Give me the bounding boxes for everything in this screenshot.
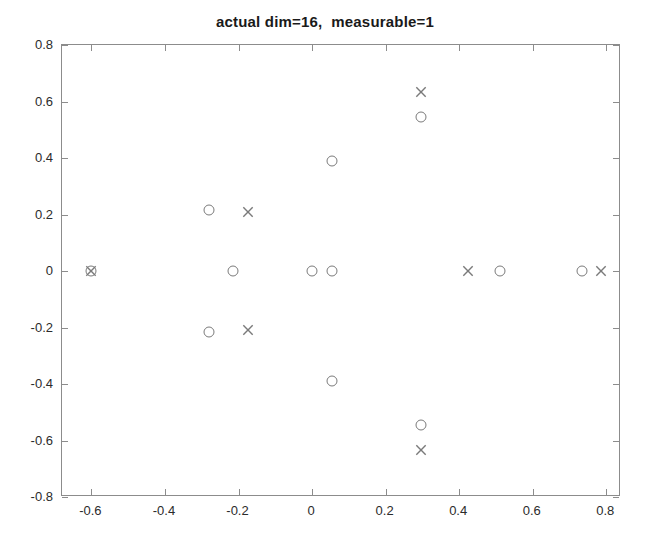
x-tick: [533, 489, 534, 495]
y-tick-right: [613, 271, 619, 272]
y-tick-label: -0.4: [0, 376, 53, 391]
x-tick-label: 0.8: [596, 503, 614, 518]
data-point-circle: [415, 112, 426, 123]
x-tick-top: [312, 45, 313, 51]
y-tick: [62, 271, 68, 272]
y-tick-right: [613, 45, 619, 46]
data-point-cross: [462, 265, 475, 278]
data-point-circle: [494, 266, 505, 277]
y-tick-right: [613, 497, 619, 498]
x-tick: [459, 489, 460, 495]
x-tick-top: [533, 45, 534, 51]
x-tick-top: [91, 45, 92, 51]
y-tick-label: -0.2: [0, 319, 53, 334]
data-point-circle: [327, 266, 338, 277]
x-tick-label: -0.2: [226, 503, 248, 518]
y-tick: [62, 497, 68, 498]
data-point-circle: [86, 266, 97, 277]
x-tick-label: -0.6: [79, 503, 101, 518]
x-tick-label: 0.4: [449, 503, 467, 518]
x-tick-top: [165, 45, 166, 51]
y-tick-label: -0.6: [0, 432, 53, 447]
data-point-cross: [414, 85, 427, 98]
y-tick-label: -0.8: [0, 489, 53, 504]
x-tick: [239, 489, 240, 495]
y-tick-label: 0: [0, 263, 53, 278]
data-point-cross: [594, 265, 607, 278]
y-tick-right: [613, 384, 619, 385]
x-tick-top: [239, 45, 240, 51]
data-point-circle: [204, 326, 215, 337]
data-point-circle: [327, 376, 338, 387]
data-point-circle: [307, 266, 318, 277]
data-point-cross: [85, 265, 98, 278]
x-tick-label: 0: [307, 503, 314, 518]
x-tick: [386, 489, 387, 495]
x-tick: [165, 489, 166, 495]
x-tick-top: [386, 45, 387, 51]
y-tick-label: 0.8: [0, 37, 53, 52]
y-tick: [62, 158, 68, 159]
y-tick: [62, 102, 68, 103]
data-point-circle: [577, 266, 588, 277]
y-tick-label: 0.2: [0, 206, 53, 221]
y-tick: [62, 215, 68, 216]
y-tick-right: [613, 441, 619, 442]
data-point-cross: [241, 324, 254, 337]
y-tick-label: 0.6: [0, 93, 53, 108]
x-tick-label: 0.2: [376, 503, 394, 518]
chart-figure: actual dim=16, measurable=1 -0.6-0.4-0.2…: [0, 0, 650, 551]
plot-area: [61, 44, 620, 496]
x-tick-label: 0.6: [523, 503, 541, 518]
x-tick-label: -0.4: [153, 503, 175, 518]
y-tick: [62, 45, 68, 46]
chart-title: actual dim=16, measurable=1: [0, 13, 650, 30]
data-point-circle: [327, 155, 338, 166]
data-point-circle: [415, 419, 426, 430]
y-tick: [62, 441, 68, 442]
x-tick: [606, 489, 607, 495]
data-point-circle: [204, 205, 215, 216]
y-tick-right: [613, 102, 619, 103]
y-tick: [62, 328, 68, 329]
data-point-cross: [241, 205, 254, 218]
y-tick-label: 0.4: [0, 150, 53, 165]
y-tick: [62, 384, 68, 385]
y-tick-right: [613, 215, 619, 216]
x-tick: [91, 489, 92, 495]
data-point-circle: [228, 266, 239, 277]
x-tick-top: [606, 45, 607, 51]
y-tick-right: [613, 158, 619, 159]
y-tick-right: [613, 328, 619, 329]
data-point-cross: [414, 444, 427, 457]
x-tick-top: [459, 45, 460, 51]
x-tick: [312, 489, 313, 495]
